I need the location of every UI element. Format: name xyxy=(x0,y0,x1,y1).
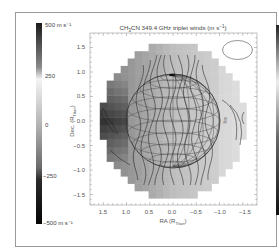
svg-text:−1.0: −1.0 xyxy=(214,209,227,215)
svg-text:1.5: 1.5 xyxy=(77,44,86,50)
wind-map-figure: CH3CN 349.4 GHz triplet winds (m s−1) 20… xyxy=(0,0,279,251)
svg-text:0.5: 0.5 xyxy=(77,93,86,99)
chart-title: CH3CN 349.4 GHz triplet winds (m s−1) xyxy=(119,24,226,33)
svg-text:0.0: 0.0 xyxy=(77,118,86,124)
y-axis-label: Dec. (RTitan) xyxy=(69,105,77,137)
svg-text:1.0: 1.0 xyxy=(77,69,86,75)
svg-text:−1.0: −1.0 xyxy=(73,167,86,173)
x-tick-labels: 1.5 1.0 0.5 0.0 −0.5 −1.0 −1.5 xyxy=(99,209,252,215)
svg-text:−0.5: −0.5 xyxy=(190,209,203,215)
svg-text:0.5: 0.5 xyxy=(145,209,154,215)
right-colorbar-partial xyxy=(276,25,279,215)
pole-marker xyxy=(169,74,175,76)
svg-text:−0.5: −0.5 xyxy=(73,143,86,149)
beam-ellipse xyxy=(223,41,253,60)
y-tick-labels: 1.5 1.0 0.5 0.0 −0.5 −1.0 −1.5 xyxy=(73,44,86,198)
colorbar xyxy=(36,23,42,224)
svg-text:0.0: 0.0 xyxy=(168,209,177,215)
svg-text:−1.5: −1.5 xyxy=(239,209,252,215)
x-axis-label: RA (RTitan) xyxy=(159,218,186,226)
svg-text:1.0: 1.0 xyxy=(122,209,131,215)
svg-text:1.5: 1.5 xyxy=(99,209,108,215)
svg-text:−1.5: −1.5 xyxy=(73,192,86,198)
